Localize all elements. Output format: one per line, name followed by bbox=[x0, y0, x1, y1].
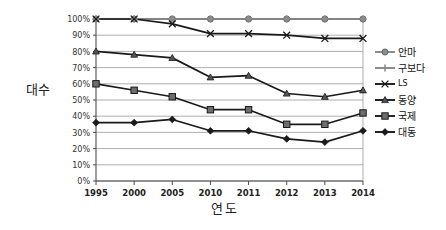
legend-item-2[interactable]: 구보다 bbox=[374, 59, 444, 75]
svg-text:50%: 50% bbox=[72, 96, 90, 105]
svg-text:0%: 0% bbox=[77, 177, 90, 186]
y-tick-labels: 100%90%80%70%60%50%40%30%20%10%0% bbox=[67, 15, 96, 186]
legend-marker-plus-bar-icon bbox=[374, 60, 396, 74]
legend-marker-triangle-icon bbox=[374, 92, 396, 106]
legend-item-5[interactable]: 국제 bbox=[374, 107, 444, 123]
svg-text:1995: 1995 bbox=[84, 188, 108, 198]
svg-text:2005: 2005 bbox=[160, 188, 184, 198]
legend-item-3[interactable]: LS bbox=[374, 75, 444, 91]
legend-item-1[interactable]: 안마 bbox=[374, 43, 444, 59]
line-chart: 대수 100%90%80%70%60%50%40%30%20%10%0% 199… bbox=[0, 0, 446, 230]
svg-text:30%: 30% bbox=[72, 129, 90, 138]
legend-marker-diamond-icon bbox=[374, 124, 396, 138]
gridlines bbox=[96, 19, 363, 181]
legend-marker-circle-icon bbox=[374, 44, 396, 58]
svg-text:2014: 2014 bbox=[351, 188, 375, 198]
legend-label: 구보다 bbox=[396, 60, 425, 75]
x-tick-labels: 19952000200520102011201220132014 bbox=[84, 188, 375, 198]
svg-text:80%: 80% bbox=[72, 48, 90, 57]
svg-text:90%: 90% bbox=[72, 31, 90, 40]
svg-text:2010: 2010 bbox=[199, 188, 223, 198]
svg-text:40%: 40% bbox=[72, 112, 90, 121]
legend-label: 대동 bbox=[396, 124, 416, 139]
legend-item-6[interactable]: 대동 bbox=[374, 123, 444, 139]
svg-text:70%: 70% bbox=[72, 64, 90, 73]
x-axis-title: 연도 bbox=[170, 198, 280, 217]
svg-text:2013: 2013 bbox=[313, 188, 337, 198]
svg-text:10%: 10% bbox=[72, 161, 90, 170]
x-tick-marks bbox=[96, 181, 363, 185]
legend-item-4[interactable]: 동양 bbox=[374, 91, 444, 107]
svg-text:20%: 20% bbox=[72, 145, 90, 154]
legend-label: 국제 bbox=[396, 108, 416, 123]
svg-text:2000: 2000 bbox=[122, 188, 146, 198]
legend-marker-x-icon bbox=[374, 76, 396, 90]
svg-text:60%: 60% bbox=[72, 80, 90, 89]
legend-label: 동양 bbox=[396, 92, 416, 107]
legend: 안마구보다LS동양국제대동 bbox=[374, 43, 444, 139]
legend-label: 안마 bbox=[396, 44, 416, 59]
svg-text:2012: 2012 bbox=[275, 188, 299, 198]
legend-marker-square-icon bbox=[374, 108, 396, 122]
legend-label: LS bbox=[396, 79, 408, 88]
svg-text:100%: 100% bbox=[67, 15, 90, 24]
svg-text:2011: 2011 bbox=[237, 188, 261, 198]
